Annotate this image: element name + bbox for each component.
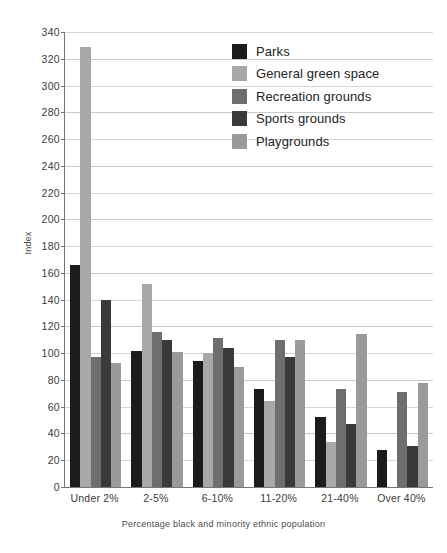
bar xyxy=(152,332,162,487)
y-axis-tick-labels: 0204060801001201401601802002202402602803… xyxy=(18,0,60,553)
bar xyxy=(142,284,152,487)
bar xyxy=(172,352,182,487)
y-tick-label: 100 xyxy=(18,348,60,358)
bar xyxy=(377,450,387,487)
legend-item: Playgrounds xyxy=(232,130,432,153)
bar xyxy=(336,389,346,487)
bar xyxy=(326,442,336,488)
legend-label: Sports grounds xyxy=(256,111,346,126)
y-tick-label: 20 xyxy=(18,455,60,465)
legend-label: General green space xyxy=(256,66,379,81)
bar xyxy=(131,351,141,488)
bar xyxy=(285,357,295,487)
bar xyxy=(193,361,203,487)
legend-swatch-icon xyxy=(232,89,247,104)
bar xyxy=(91,357,101,487)
x-tick-label: 11-20% xyxy=(248,492,309,504)
legend-swatch-icon xyxy=(232,44,247,59)
bar xyxy=(275,340,285,487)
bar-group xyxy=(131,32,182,487)
legend-label: Recreation grounds xyxy=(256,89,371,104)
y-tick-label: 240 xyxy=(18,161,60,171)
legend-label: Playgrounds xyxy=(256,134,329,149)
y-tick-label: 60 xyxy=(18,402,60,412)
y-tick-label: 300 xyxy=(18,81,60,91)
y-tick-label: 160 xyxy=(18,268,60,278)
y-tick-label: 260 xyxy=(18,134,60,144)
y-tick-label: 140 xyxy=(18,295,60,305)
y-tickmark xyxy=(61,487,65,488)
bar-group xyxy=(70,32,121,487)
x-tick-label: Over 40% xyxy=(371,492,432,504)
y-tick-label: 40 xyxy=(18,428,60,438)
bar xyxy=(418,383,428,487)
x-axis-tick-labels: Under 2%2-5%6-10%11-20%21-40%Over 40% xyxy=(64,492,432,510)
legend-item: Recreation grounds xyxy=(232,85,432,108)
legend-item: Parks xyxy=(232,40,432,63)
y-tick-label: 340 xyxy=(18,27,60,37)
bar-chart: Index 0204060801001201401601802002202402… xyxy=(0,0,447,553)
x-tick-label: 2-5% xyxy=(125,492,186,504)
y-tick-label: 220 xyxy=(18,188,60,198)
legend-label: Parks xyxy=(256,44,290,59)
bar xyxy=(295,340,305,487)
y-tick-label: 0 xyxy=(18,482,60,492)
legend-swatch-icon xyxy=(232,66,247,81)
y-tick-label: 200 xyxy=(18,214,60,224)
x-axis-title: Percentage black and minority ethnic pop… xyxy=(0,519,447,529)
y-tick-label: 320 xyxy=(18,54,60,64)
bar xyxy=(356,334,366,487)
legend-item: General green space xyxy=(232,63,432,86)
bar xyxy=(203,353,213,487)
bar xyxy=(407,446,417,487)
y-tick-label: 120 xyxy=(18,321,60,331)
bar xyxy=(162,340,172,487)
chart-legend: ParksGeneral green spaceRecreation groun… xyxy=(232,40,432,153)
bar xyxy=(397,392,407,487)
bar xyxy=(315,417,325,487)
x-tick-label: 6-10% xyxy=(187,492,248,504)
bar xyxy=(213,338,223,487)
bar xyxy=(70,265,80,487)
legend-item: Sports grounds xyxy=(232,108,432,131)
bar xyxy=(111,363,121,487)
y-tick-label: 80 xyxy=(18,375,60,385)
bar xyxy=(346,424,356,487)
bar xyxy=(264,401,274,487)
y-tick-label: 180 xyxy=(18,241,60,251)
legend-swatch-icon xyxy=(232,111,247,126)
bar xyxy=(101,300,111,487)
bar xyxy=(80,47,90,487)
bar xyxy=(254,389,264,487)
bar xyxy=(223,348,233,487)
x-tick-label: 21-40% xyxy=(309,492,370,504)
x-tick-label: Under 2% xyxy=(64,492,125,504)
bar xyxy=(234,367,244,487)
legend-swatch-icon xyxy=(232,134,247,149)
y-tick-label: 280 xyxy=(18,107,60,117)
